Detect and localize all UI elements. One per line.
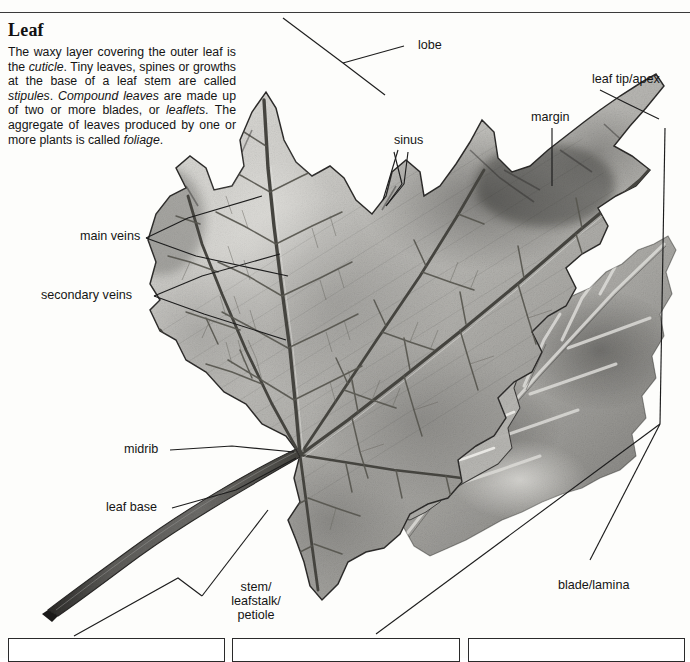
label-main-veins: main veins: [80, 229, 140, 243]
leader-midrib: [170, 446, 294, 452]
label-stem-petiole: stem/ leafstalk/ petiole: [206, 580, 306, 622]
label-midrib: midrib: [124, 442, 158, 456]
bottom-panel-3: [468, 638, 685, 662]
label-secondary-veins: secondary veins: [41, 288, 132, 302]
leader-main-veins: [146, 196, 288, 276]
label-leaf-base: leaf base: [106, 500, 157, 514]
label-lobe: lobe: [418, 38, 442, 52]
leader-sinus: [383, 150, 408, 206]
leader-secondary-veins: [154, 254, 286, 340]
leader-lobe: [283, 18, 404, 95]
label-sinus: sinus: [394, 133, 423, 147]
label-blade-lamina: blade/lamina: [558, 578, 629, 592]
leader-leaf-tip: [600, 90, 659, 119]
bottom-panel-1: [8, 638, 225, 662]
label-leaf-tip-apex: leaf tip/apex: [592, 72, 660, 86]
leader-blade-lamina: [376, 128, 665, 634]
bottom-panel-2: [232, 638, 460, 662]
label-margin: margin: [531, 110, 570, 124]
leader-leaf-base: [172, 458, 296, 508]
